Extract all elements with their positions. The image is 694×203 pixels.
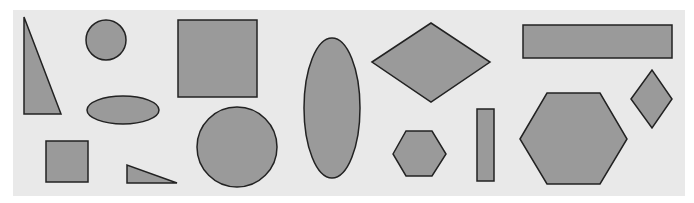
hexagon-small-shape [393,131,446,176]
rect-wide-shape [523,25,672,58]
circle-small-shape [86,20,126,60]
ellipse-horizontal-shape [87,96,159,124]
circle-large-shape [197,107,277,187]
right-triangle-flat-shape [127,165,177,183]
rect-tall-shape [477,109,494,181]
right-triangle-tall-shape [24,17,61,114]
shapes-canvas [0,0,694,203]
hexagon-large-shape [520,93,627,184]
ellipse-vertical-shape [304,38,360,178]
square-small-shape [46,141,88,182]
diamond-small-shape [631,70,672,128]
diamond-wide-shape [372,23,490,102]
square-large-shape [178,20,257,97]
